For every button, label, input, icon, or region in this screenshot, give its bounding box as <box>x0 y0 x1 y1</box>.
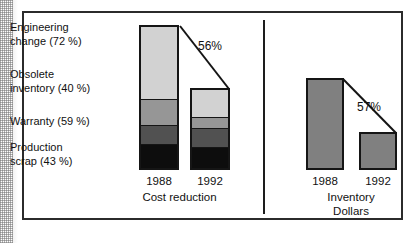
bar-segment-obsolete-inventory <box>141 99 177 125</box>
bar-segment-warranty <box>192 128 228 147</box>
legend-item-obsolete-inventory: Obsolete inventory (40 %) <box>10 68 90 95</box>
axis-label-cost-1992: 1992 <box>190 175 230 187</box>
bar-segment-production-scrap <box>141 144 177 168</box>
legend-item-production-scrap: Production scrap (43 %) <box>10 141 72 168</box>
axis-label-inventory-1992: 1992 <box>357 175 399 187</box>
bar-fill-inventory-1992 <box>361 134 395 168</box>
panel-caption-inventory-dollars: Inventory Dollars <box>300 190 402 218</box>
bar-inventory-dollars-1992 <box>359 132 397 170</box>
bar-segment-engineering-change <box>141 27 177 99</box>
axis-label-cost-1988: 1988 <box>139 175 179 187</box>
axis-label-inventory-1988: 1988 <box>304 175 346 187</box>
legend-item-engineering-change: Engineering change (72 %) <box>10 21 82 48</box>
bar-cost-reduction-1988 <box>139 25 179 170</box>
bar-fill-inventory-1988 <box>308 80 342 168</box>
panel-caption-cost-reduction: Cost reduction <box>122 190 237 204</box>
bar-cost-reduction-1992 <box>190 88 230 170</box>
panel-divider <box>263 20 265 214</box>
reduction-percent-cost: 56% <box>198 39 222 53</box>
bar-inventory-dollars-1988 <box>306 78 344 170</box>
bar-segment-obsolete-inventory <box>192 117 228 128</box>
bar-segment-engineering-change <box>192 90 228 117</box>
bar-segment-production-scrap <box>192 147 228 168</box>
reduction-percent-inventory: 57% <box>357 100 381 114</box>
legend-item-warranty: Warranty (59 %) <box>10 115 90 129</box>
bar-segment-warranty <box>141 125 177 144</box>
